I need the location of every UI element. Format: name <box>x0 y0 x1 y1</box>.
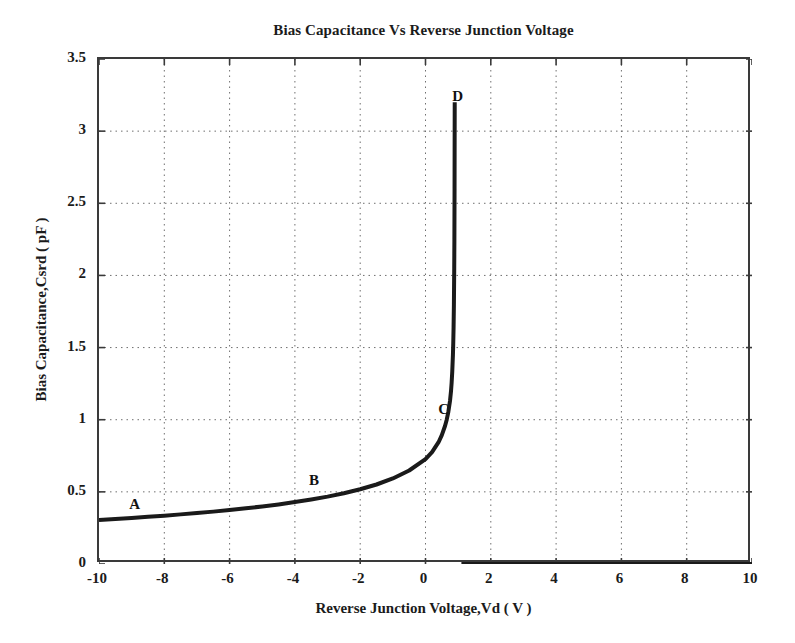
annotation-label-c: C <box>438 401 449 418</box>
x-tick-label: 10 <box>743 570 758 587</box>
chart-title: Bias Capacitance Vs Reverse Junction Vol… <box>97 22 750 39</box>
y-axis-title: Bias Capacitance,Csrd ( pF ) <box>33 57 50 562</box>
data-line-1 <box>99 102 455 520</box>
gridlines <box>99 59 752 564</box>
x-tick-label: -4 <box>287 570 300 587</box>
plot-canvas <box>99 59 752 564</box>
x-tick-label: 4 <box>550 570 558 587</box>
annotation-label-d: D <box>452 87 463 104</box>
annotation-label-b: B <box>309 472 319 489</box>
x-axis-title: Reverse Junction Voltage,Vd ( V ) <box>97 600 750 617</box>
x-tick-label: 8 <box>681 570 689 587</box>
x-tick-label: -8 <box>156 570 169 587</box>
x-tick-label: -6 <box>221 570 234 587</box>
x-tick-label: 2 <box>485 570 493 587</box>
plot-area <box>97 57 750 562</box>
x-tick-label: -2 <box>352 570 365 587</box>
chart-figure: Bias Capacitance Vs Reverse Junction Vol… <box>0 0 795 643</box>
annotation-label-a: A <box>129 496 140 513</box>
x-tick-label: 0 <box>420 570 428 587</box>
x-tick-label: 6 <box>616 570 624 587</box>
x-tick-label: -10 <box>87 570 107 587</box>
